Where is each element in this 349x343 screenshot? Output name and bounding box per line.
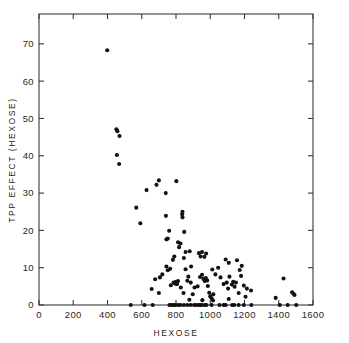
- data-point: [117, 162, 121, 166]
- data-point: [210, 268, 214, 272]
- x-tick-label: 400: [99, 309, 116, 320]
- data-point: [232, 303, 236, 307]
- data-point: [218, 275, 222, 279]
- data-point: [117, 134, 121, 138]
- data-point: [239, 274, 243, 278]
- data-point: [187, 298, 191, 302]
- data-point: [235, 258, 239, 262]
- data-point: [199, 254, 203, 258]
- data-point: [224, 257, 228, 261]
- data-point: [153, 277, 157, 281]
- data-point: [292, 293, 296, 297]
- data-point: [188, 249, 192, 253]
- y-tick-label: 50: [23, 113, 34, 124]
- y-tick-label: 60: [23, 76, 34, 87]
- data-point: [179, 285, 183, 289]
- data-point: [196, 284, 200, 288]
- data-point: [184, 250, 188, 254]
- y-tick-label: 40: [23, 150, 34, 161]
- y-tick-label: 70: [23, 38, 34, 49]
- data-point: [227, 297, 231, 301]
- data-point: [164, 214, 168, 218]
- data-point: [150, 287, 154, 291]
- data-point: [204, 251, 208, 255]
- y-tick-label: 20: [23, 225, 34, 236]
- data-point: [182, 256, 186, 260]
- data-point: [164, 191, 168, 195]
- y-tick-label: 10: [23, 262, 34, 273]
- data-point: [157, 291, 161, 295]
- x-tick-label: 200: [65, 309, 82, 320]
- data-point: [242, 303, 246, 307]
- data-point: [178, 241, 182, 245]
- data-point: [189, 281, 193, 285]
- data-point: [158, 275, 162, 279]
- y-tick-label: 0: [28, 299, 34, 310]
- data-point: [238, 268, 242, 272]
- data-point: [180, 210, 184, 214]
- axis-ticks: [39, 14, 313, 305]
- data-point: [204, 303, 208, 307]
- data-point: [191, 292, 195, 296]
- data-points-group: [105, 48, 298, 307]
- data-point: [245, 287, 249, 291]
- data-point: [184, 267, 188, 271]
- data-point: [211, 298, 215, 302]
- data-point: [278, 303, 282, 307]
- data-point: [200, 250, 204, 254]
- data-point: [227, 275, 231, 279]
- x-tick-label: 800: [167, 309, 184, 320]
- x-tick-label: 1200: [233, 309, 256, 320]
- data-point: [286, 303, 290, 307]
- data-point: [200, 298, 204, 302]
- data-point: [294, 303, 298, 307]
- data-point: [157, 178, 161, 182]
- data-point: [211, 292, 215, 296]
- data-point: [177, 245, 181, 249]
- data-point: [181, 291, 185, 295]
- data-point: [216, 266, 220, 270]
- x-tick-label: 1400: [267, 309, 290, 320]
- data-point: [213, 272, 217, 276]
- x-tick-label: 1000: [199, 309, 222, 320]
- data-point: [115, 153, 119, 157]
- data-point: [186, 275, 190, 279]
- x-tick-labels: 02004006008001000120014001600: [36, 309, 324, 320]
- data-point: [249, 303, 253, 307]
- data-point: [151, 303, 155, 307]
- data-point: [145, 188, 149, 192]
- x-tick-label: 600: [133, 309, 150, 320]
- data-point: [176, 279, 180, 283]
- scatter-plot-figure: 02004006008001000120014001600 0102030405…: [0, 0, 349, 343]
- data-point: [164, 265, 168, 269]
- x-tick-label: 1600: [302, 309, 325, 320]
- data-point: [237, 291, 241, 295]
- data-point: [240, 264, 244, 268]
- x-tick-label: 0: [36, 309, 42, 320]
- data-point: [182, 230, 186, 234]
- data-point: [207, 291, 211, 295]
- data-point: [129, 303, 133, 307]
- data-point: [249, 288, 253, 292]
- data-point: [174, 179, 178, 183]
- data-point: [142, 303, 146, 307]
- data-point: [105, 48, 109, 52]
- x-axis-label: HEXOSE: [153, 328, 198, 338]
- data-point: [166, 237, 170, 241]
- data-point: [226, 287, 230, 291]
- data-point: [234, 281, 238, 285]
- data-point: [224, 303, 228, 307]
- data-point: [206, 284, 210, 288]
- data-point: [210, 303, 214, 307]
- data-point: [227, 261, 231, 265]
- plot-frame-box: [39, 14, 313, 305]
- data-point: [134, 206, 138, 210]
- data-point: [217, 303, 221, 307]
- data-point: [274, 296, 278, 300]
- data-point: [243, 295, 247, 299]
- data-point: [225, 281, 229, 285]
- data-point: [205, 278, 209, 282]
- data-point: [233, 285, 237, 289]
- data-point: [281, 276, 285, 280]
- data-point: [180, 215, 184, 219]
